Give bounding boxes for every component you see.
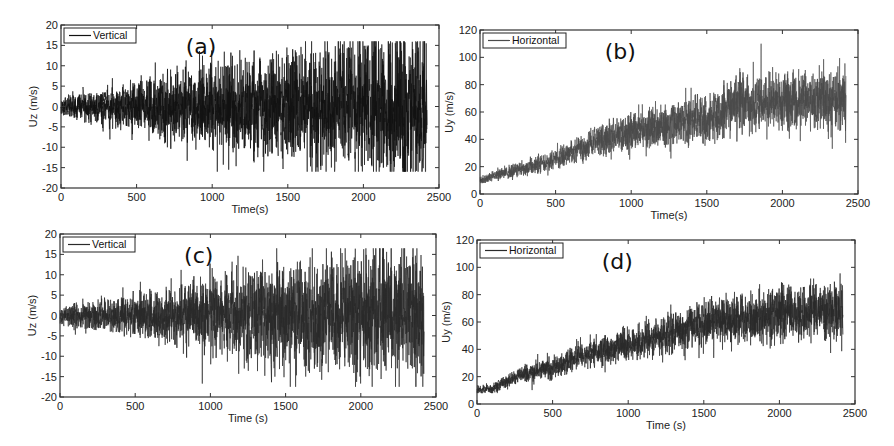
subplot-d: 05001000150020002500020406080100120Time … xyxy=(440,234,867,431)
y-tick-label: -15 xyxy=(42,162,58,174)
x-axis-label: Time(s) xyxy=(651,209,688,221)
subplot-a: 05001000150020002500-20-15-10-505101520T… xyxy=(27,19,451,215)
y-tick-label: 10 xyxy=(46,60,58,72)
y-tick-label: 100 xyxy=(456,261,474,273)
x-tick-label: 500 xyxy=(543,407,561,419)
y-tick-label: 5 xyxy=(52,80,58,92)
y-axis-label: Uz (m/s) xyxy=(26,295,38,337)
y-tick-label: 20 xyxy=(465,161,477,173)
x-tick-label: 2000 xyxy=(349,400,373,412)
y-tick-label: -15 xyxy=(41,371,57,383)
x-tick-label: 2500 xyxy=(424,400,448,412)
x-axis-label: Time (s) xyxy=(228,412,268,424)
y-tick-label: -10 xyxy=(42,141,58,153)
y-tick-label: 120 xyxy=(459,24,477,36)
x-tick-label: 500 xyxy=(546,197,564,209)
y-tick-label: 60 xyxy=(465,106,477,118)
x-tick-label: 1000 xyxy=(619,197,643,209)
x-tick-label: 2000 xyxy=(767,407,791,419)
subplot-c: 05001000150020002500-20-15-10-505101520T… xyxy=(26,228,448,424)
y-tick-label: 20 xyxy=(462,371,474,383)
legend-label: Horizontal xyxy=(509,244,556,256)
x-tick-label: 2500 xyxy=(427,191,451,203)
y-tick-label: 20 xyxy=(45,228,57,240)
x-tick-label: 1500 xyxy=(276,191,300,203)
y-tick-label: 0 xyxy=(468,398,474,410)
y-tick-label: 0 xyxy=(51,310,57,322)
x-tick-label: 500 xyxy=(127,191,145,203)
y-tick-label: 80 xyxy=(462,289,474,301)
legend-label: Vertical xyxy=(92,238,126,250)
legend-label: Horizontal xyxy=(512,34,559,46)
figure: 05001000150020002500-20-15-10-505101520T… xyxy=(0,0,894,446)
subplot-b: 05001000150020002500020406080100120Time(… xyxy=(443,24,870,221)
y-tick-label: 40 xyxy=(462,343,474,355)
x-tick-label: 0 xyxy=(477,197,483,209)
panel-label: (d) xyxy=(602,249,633,274)
y-tick-label: 80 xyxy=(465,79,477,91)
x-axis-label: Time (s) xyxy=(646,419,686,431)
x-tick-label: 1000 xyxy=(200,191,224,203)
y-tick-label: 0 xyxy=(52,101,58,113)
y-tick-label: 15 xyxy=(46,39,58,51)
y-tick-label: 20 xyxy=(46,19,58,31)
x-tick-label: 2500 xyxy=(843,407,867,419)
x-tick-label: 0 xyxy=(474,407,480,419)
x-axis-label: Time(s) xyxy=(232,203,269,215)
y-tick-label: -20 xyxy=(41,391,57,403)
y-axis-label: Uy (m/s) xyxy=(440,301,452,343)
x-tick-label: 0 xyxy=(58,191,64,203)
y-tick-label: -5 xyxy=(47,330,57,342)
x-tick-label: 1000 xyxy=(616,407,640,419)
x-tick-label: 1000 xyxy=(198,400,222,412)
legend-label: Vertical xyxy=(93,29,127,41)
x-tick-label: 1500 xyxy=(692,407,716,419)
y-axis-label: Uz (m/s) xyxy=(27,86,39,128)
x-tick-label: 2000 xyxy=(770,197,794,209)
y-axis-label: Uy (m/s) xyxy=(443,91,455,133)
panel-label: (c) xyxy=(184,243,213,268)
y-tick-label: 5 xyxy=(51,289,57,301)
x-tick-label: 0 xyxy=(57,400,63,412)
y-tick-label: -10 xyxy=(41,350,57,362)
panel-label: (b) xyxy=(605,39,636,64)
y-tick-label: 120 xyxy=(456,234,474,246)
y-tick-label: -20 xyxy=(42,182,58,194)
y-tick-label: -5 xyxy=(48,121,58,133)
x-tick-label: 500 xyxy=(126,400,144,412)
y-tick-label: 10 xyxy=(45,269,57,281)
x-tick-label: 2000 xyxy=(351,191,375,203)
y-tick-label: 15 xyxy=(45,248,57,260)
panel-label: (a) xyxy=(186,34,217,59)
x-tick-label: 1500 xyxy=(273,400,297,412)
x-tick-label: 2500 xyxy=(846,197,870,209)
y-tick-label: 100 xyxy=(459,51,477,63)
x-tick-label: 1500 xyxy=(695,197,719,209)
y-tick-label: 60 xyxy=(462,316,474,328)
y-tick-label: 40 xyxy=(465,133,477,145)
y-tick-label: 0 xyxy=(471,188,477,200)
